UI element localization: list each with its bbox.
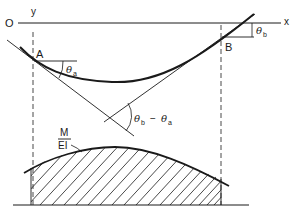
origin-label: O [5,17,14,29]
m-ei-denominator: EI [58,140,67,151]
theta-diff-subscript-a: a [168,119,172,126]
theta-a-symbol: θ [66,64,72,75]
theta-a-subscript: a [73,70,77,77]
point-b-label: B [225,41,232,53]
theta-diff-arc [126,103,132,131]
diagram-canvas: O y x A θ a B θ b θ b − θ a [0,0,295,217]
y-axis-label: y [31,6,36,17]
elastic-curve [20,14,254,82]
theta-a-arc [59,61,63,78]
x-axis-label: x [284,16,289,27]
theta-diff-annotation: θ b − θ a [134,113,172,126]
tangent-line-a [7,40,134,136]
m-ei-numerator: M [60,127,68,138]
m-ei-label: M EI [58,127,82,152]
m-ei-curve [24,147,229,186]
theta-diff-subscript-b: b [141,119,145,126]
theta-b-annotation: θ b [256,25,267,38]
theta-diff-symbol-a: θ [161,113,167,124]
theta-diff-minus: − [150,113,156,124]
theta-b-symbol: θ [256,25,262,36]
point-a-label: A [36,48,44,60]
theta-diff-symbol-b: θ [134,113,140,124]
theta-b-subscript: b [263,31,267,38]
